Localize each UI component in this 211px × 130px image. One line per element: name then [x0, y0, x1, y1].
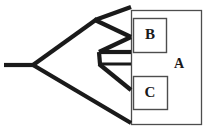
branch-upper-node-to-tip-1: [95, 7, 131, 20]
branch-root-to-tip-6: [33, 65, 131, 123]
clade-b-label: B: [133, 27, 167, 42]
branch-root-to-upper-node: [33, 19, 97, 65]
branch-upper-node-to-tip-2: [95, 20, 131, 37]
branch-mid-node-to-tip-5: [99, 64, 131, 90]
clade-a-label: A: [168, 57, 190, 71]
clade-c-label: C: [133, 85, 167, 100]
cladogram-figure: B C A: [0, 0, 211, 130]
branch-tip2-chain-to-mid-node: [99, 37, 131, 52]
tree-branches: [4, 7, 131, 123]
branch-mid-node-connector: [99, 52, 100, 64]
